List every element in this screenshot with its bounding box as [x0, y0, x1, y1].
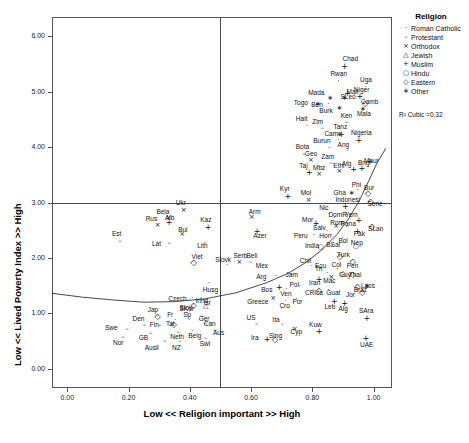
point-label-gha: Gha	[334, 189, 346, 196]
other-marker-icon: ∗	[401, 87, 411, 96]
x-tick-label: 0.00	[57, 394, 77, 401]
point-label-isr: Isr	[204, 299, 211, 306]
point-label-mol: Mol	[301, 189, 311, 196]
point-label-guat: Guat	[326, 289, 340, 296]
point-label-nep: Nep	[351, 239, 363, 246]
data-point-taj: +	[306, 169, 313, 176]
data-point-burk: ∗	[336, 105, 342, 112]
data-point-kuw: +	[316, 327, 323, 334]
x-tick	[67, 388, 68, 392]
data-point-indonesi: +	[342, 203, 349, 210]
x-tick	[129, 388, 130, 392]
x-tick	[374, 388, 375, 392]
point-label-nz: NZ	[172, 344, 181, 351]
legend-item-jewish[interactable]: △Jewish	[401, 51, 461, 60]
legend-item-protestant[interactable]: –Protestant	[401, 33, 461, 42]
data-point-chad: +	[341, 63, 348, 70]
point-label-ang: Ang	[338, 141, 350, 148]
point-label-chil: Chil	[300, 257, 311, 264]
legend-item-catholic[interactable]: ·Roman Catholic	[401, 24, 461, 33]
legend-label: Hindu	[411, 69, 429, 78]
y-tick	[48, 258, 52, 259]
point-label-burk: Burk	[319, 107, 332, 114]
point-label-tanz: Tanz	[333, 123, 347, 130]
data-point-ang: ·	[346, 148, 348, 155]
point-label-swi: Swi	[200, 340, 210, 347]
point-label-greece: Greece	[247, 298, 268, 305]
point-label-geo: Geo	[305, 150, 317, 157]
x-tick-label: 0.40	[180, 394, 200, 401]
y-tick	[48, 92, 52, 93]
data-point-ukr: ×	[181, 207, 187, 214]
r-squared-annotation: R² Cubic =0.32	[399, 111, 443, 118]
point-label-ukr: Ukr	[176, 199, 186, 206]
y-tick	[48, 369, 52, 370]
point-label-bul: Bul	[178, 226, 187, 233]
data-point-greece: ×	[270, 294, 276, 301]
point-label-alg: Alg	[339, 305, 348, 312]
muslim-marker-icon: +	[401, 60, 411, 69]
legend-label: Eastern	[411, 78, 435, 87]
point-label-swe: Swe	[105, 324, 118, 331]
point-label-nigeria: Nigeria	[351, 129, 372, 136]
legend-item-orthodox[interactable]: ×Orthodox	[401, 42, 461, 51]
data-point-swe: –	[125, 325, 129, 332]
point-label-jap: Jap	[148, 306, 158, 313]
y-tick	[48, 313, 52, 314]
data-point-lat: –	[167, 239, 171, 246]
point-label-bng: Bng	[358, 159, 370, 166]
data-point-burun: ·	[328, 145, 330, 152]
data-point-kaz: +	[205, 223, 212, 230]
data-point-serb: ×	[237, 259, 243, 266]
data-point-beli: –	[249, 259, 253, 266]
data-point-mol: ×	[306, 197, 312, 204]
point-label-arg: Arg	[256, 273, 266, 280]
legend-item-muslim[interactable]: +Muslim	[401, 60, 461, 69]
point-label-niger: Niger	[354, 86, 370, 93]
legend-item-hindu[interactable]: ○Hindu	[401, 69, 461, 78]
data-point-gha: ∗	[349, 189, 355, 196]
data-point-rwan: ·	[337, 78, 339, 85]
legend: Religion ·Roman Catholic–Protestant×Orth…	[401, 12, 461, 96]
eastern-marker-icon: ◇	[401, 78, 411, 87]
y-tick-label: 1.00	[21, 309, 45, 316]
point-label-leb: Leb	[324, 303, 335, 310]
point-label-beli: Beli	[246, 252, 257, 259]
point-label-sara: SAra	[359, 307, 373, 314]
point-label-uae: UAE	[360, 341, 373, 348]
point-label-burun: Burun	[313, 137, 330, 144]
point-label-kaz: Kaz	[200, 216, 211, 223]
point-label-czech: Czech	[168, 295, 186, 302]
point-label-jor: Jor	[346, 291, 355, 298]
point-label-peru: Peru	[294, 232, 308, 239]
point-label-alb: Alb	[165, 214, 174, 221]
point-label-nic: Nic	[319, 204, 328, 211]
hindu-marker-icon: ○	[401, 69, 411, 78]
point-label-zim: Zim	[312, 118, 323, 125]
point-label-belg: Belg	[188, 332, 201, 339]
point-label-col: Col	[331, 261, 341, 268]
point-label-pen: Pen	[347, 262, 359, 269]
x-tick-label: 0.80	[302, 394, 322, 401]
point-label-tai: Tai	[166, 320, 174, 327]
chart-root: +Chad·Rwan·Uga+Mali+Niger∗Mada∗SLeo∗Togo…	[0, 0, 469, 443]
x-axis-title: Low << Religion important >> High	[52, 408, 392, 419]
point-label-cyp: Cyp	[291, 328, 303, 335]
point-label-mala: Mala	[357, 110, 371, 117]
x-tick	[190, 388, 191, 392]
point-label-est: Est	[112, 230, 121, 237]
legend-item-other[interactable]: ∗Other	[401, 87, 461, 96]
point-label-fr: Fr	[167, 311, 173, 318]
point-label-india: India	[305, 242, 319, 249]
point-label-sene: Sene	[368, 200, 383, 207]
y-tick-label: 0.00	[21, 365, 45, 372]
data-point-hait: ·	[306, 123, 308, 130]
data-point-us: –	[255, 321, 259, 328]
legend-label: Orthodox	[411, 42, 440, 51]
point-label-turk: Turk	[337, 251, 350, 258]
legend-item-eastern[interactable]: ◇Eastern	[401, 78, 461, 87]
x-tick	[312, 388, 313, 392]
data-point-rus: ×	[155, 221, 161, 228]
legend-title: Religion	[401, 12, 461, 21]
point-label-togo: Togo	[294, 99, 308, 106]
